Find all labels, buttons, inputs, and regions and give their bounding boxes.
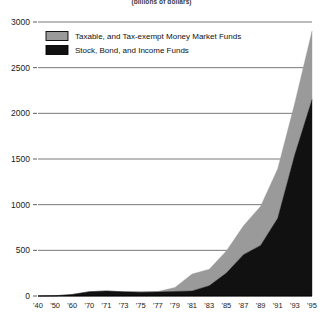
y-axis-tick-label: 1000 [11, 200, 30, 210]
y-axis-tick-label: 1500 [11, 154, 30, 164]
y-axis-tick-label: 2500 [11, 63, 30, 73]
y-axis-tick-label: 0 [25, 291, 30, 301]
y-axis-tick-label: 500 [16, 245, 30, 255]
x-axis-tick-label: '60 [67, 301, 77, 310]
x-axis-tick-label: '75 [136, 301, 146, 310]
x-axis-tick-label: '91 [273, 301, 283, 310]
legend-swatch [46, 32, 68, 41]
legend-label: Stock, Bond, and Income Funds [75, 46, 189, 55]
x-axis-tick-label: '40 [33, 301, 43, 310]
x-axis-tick-label: '70 [84, 301, 94, 310]
x-axis-tick-label: '71 [102, 301, 112, 310]
y-axis-tick-label: 2000 [11, 108, 30, 118]
x-axis-tick-label: '79 [170, 301, 180, 310]
x-axis-tick-label: '85 [221, 301, 231, 310]
chart-plot-area: 050010001500200025003000 '40'50'60'70'71… [0, 0, 323, 320]
chart-legend: Taxable, and Tax-exempt Money Market Fun… [46, 32, 241, 55]
x-axis-tick-labels: '40'50'60'70'71'73'75'77'79'81'83'85'87'… [33, 301, 317, 310]
x-axis-tick-label: '77 [153, 301, 163, 310]
x-axis-tick-label: '95 [307, 301, 317, 310]
x-axis-tick-label: '87 [239, 301, 249, 310]
x-axis-tick-label: '83 [204, 301, 214, 310]
y-axis-tick-label: 3000 [11, 17, 30, 27]
y-axis-tick-marks [33, 22, 37, 296]
legend-swatch [46, 46, 68, 55]
y-axis-tick-labels: 050010001500200025003000 [11, 17, 30, 301]
x-axis-tick-label: '50 [50, 301, 60, 310]
mutual-fund-assets-area-chart: (billions of dollars) 050010001500200025… [0, 0, 323, 320]
x-axis-tick-label: '73 [119, 301, 129, 310]
stacked-area-series [38, 31, 312, 296]
x-axis-tick-label: '81 [187, 301, 197, 310]
legend-label: Taxable, and Tax-exempt Money Market Fun… [75, 32, 241, 41]
x-axis-tick-label: '89 [256, 301, 266, 310]
x-axis-tick-label: '93 [290, 301, 300, 310]
